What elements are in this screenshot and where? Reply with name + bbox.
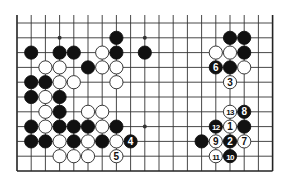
white-stone: 9	[209, 135, 222, 148]
black-stone	[25, 135, 38, 148]
white-stone	[81, 150, 94, 163]
black-stone-icon	[53, 120, 66, 133]
white-stone-icon	[110, 76, 123, 89]
black-stone	[110, 31, 123, 44]
black-stone-icon	[110, 120, 123, 133]
black-stone-icon	[25, 46, 38, 59]
white-stone	[96, 61, 109, 74]
black-stone	[25, 120, 38, 133]
star-point-icon	[143, 36, 147, 40]
black-stone-icon	[53, 105, 66, 118]
black-stone: 8	[238, 105, 251, 118]
white-stone	[39, 61, 52, 74]
black-stone-icon	[53, 46, 66, 59]
black-stone-icon	[53, 90, 66, 103]
move-number-label: 10	[226, 153, 235, 162]
white-stone	[67, 150, 80, 163]
white-stone	[110, 61, 123, 74]
black-stone-icon	[25, 90, 38, 103]
white-stone-icon	[96, 61, 109, 74]
black-stone	[195, 135, 208, 148]
black-stone: 6	[209, 61, 222, 74]
black-stone-icon	[25, 76, 38, 89]
white-stone	[209, 46, 222, 59]
black-stone	[138, 46, 151, 59]
move-number-label: 6	[213, 62, 219, 73]
star-point-icon	[58, 36, 62, 40]
move-number-label: 7	[241, 136, 247, 147]
white-stone-icon	[53, 76, 66, 89]
white-stone: 1	[223, 120, 236, 133]
black-stone-icon	[223, 31, 236, 44]
black-stone	[81, 120, 94, 133]
white-stone	[53, 61, 66, 74]
white-stone-icon	[209, 46, 222, 59]
black-stone	[223, 61, 236, 74]
white-stone	[110, 135, 123, 148]
white-stone: 3	[223, 76, 236, 89]
white-stone	[110, 76, 123, 89]
white-stone-icon	[39, 105, 52, 118]
white-stone-icon	[39, 120, 52, 133]
black-stone-icon	[96, 135, 109, 148]
black-stone	[67, 120, 80, 133]
black-stone-icon	[67, 46, 80, 59]
move-number-label: 12	[212, 123, 221, 132]
black-stone: 10	[223, 150, 236, 163]
white-stone	[53, 150, 66, 163]
white-stone	[96, 120, 109, 133]
black-stone	[53, 105, 66, 118]
black-stone-icon	[195, 135, 208, 148]
black-stone-icon	[138, 46, 151, 59]
black-stone	[110, 120, 123, 133]
move-number-label: 13	[226, 108, 235, 117]
black-stone-icon	[110, 31, 123, 44]
white-stone	[39, 120, 52, 133]
black-stone	[39, 76, 52, 89]
black-stone	[67, 46, 80, 59]
black-stone-icon	[25, 135, 38, 148]
white-stone-icon	[67, 76, 80, 89]
move-number-label: 1	[227, 121, 233, 132]
black-stone	[25, 90, 38, 103]
move-number-label: 9	[213, 136, 219, 147]
black-stone	[238, 120, 251, 133]
black-stone-icon	[223, 61, 236, 74]
white-stone	[96, 46, 109, 59]
move-number-label: 2	[227, 136, 233, 147]
black-stone	[238, 31, 251, 44]
white-stone-icon	[223, 46, 236, 59]
white-stone	[53, 76, 66, 89]
black-stone	[67, 135, 80, 148]
black-stone-icon	[67, 120, 80, 133]
move-number-label: 11	[212, 153, 220, 162]
white-stone	[238, 61, 251, 74]
white-stone	[39, 90, 52, 103]
white-stone-icon	[96, 120, 109, 133]
black-stone: 4	[124, 135, 137, 148]
move-number-label: 8	[241, 106, 247, 117]
white-stone-icon	[110, 61, 123, 74]
black-stone	[53, 120, 66, 133]
white-stone-icon	[53, 135, 66, 148]
black-stone	[39, 135, 52, 148]
white-stone	[81, 135, 94, 148]
black-stone-icon	[67, 135, 80, 148]
white-stone	[96, 105, 109, 118]
go-board-diagram: 63138121492751110	[0, 0, 287, 187]
white-stone-icon	[67, 150, 80, 163]
white-stone: 5	[110, 150, 123, 163]
white-stone-icon	[53, 61, 66, 74]
black-stone-icon	[81, 61, 94, 74]
black-stone	[81, 61, 94, 74]
black-stone	[238, 46, 251, 59]
black-stone	[96, 135, 109, 148]
black-stone-icon	[238, 31, 251, 44]
white-stone	[39, 105, 52, 118]
white-stone-icon	[96, 105, 109, 118]
white-stone: 11	[209, 150, 222, 163]
white-stone	[53, 135, 66, 148]
move-number-label: 3	[227, 77, 233, 88]
white-stone-icon	[96, 46, 109, 59]
black-stone-icon	[238, 120, 251, 133]
